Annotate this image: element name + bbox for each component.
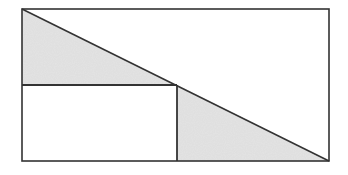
diagram-canvas bbox=[0, 0, 348, 175]
inner-unshaded-rectangle bbox=[23, 86, 176, 160]
